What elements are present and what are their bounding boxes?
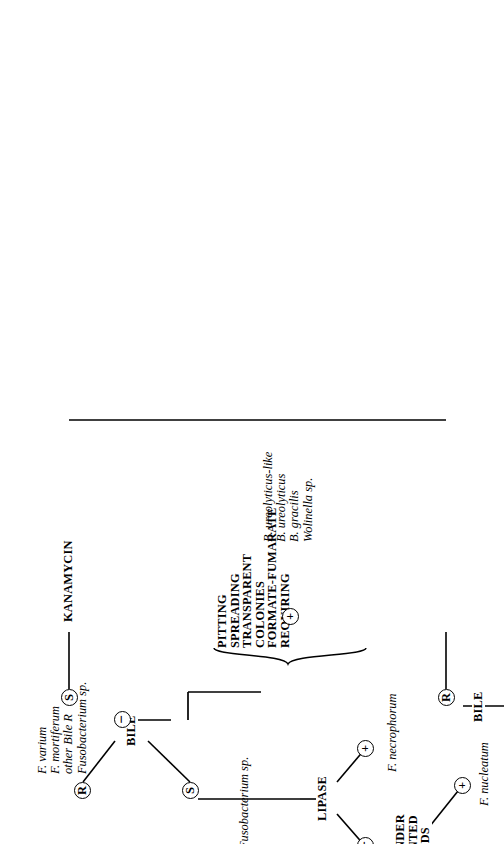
identification-key-figure: KANAMYCIN S R PITTING SPREADING TRANSPAR… [0, 0, 504, 844]
taxa-fusobacterium-sp-mid: Fusobacterium sp. [238, 757, 251, 844]
test-label-kanamycin: KANAMYCIN [62, 540, 75, 622]
taxa-f-necrophorum: F. necrophorum [386, 694, 399, 772]
node-bile-top-resistant[interactable]: R [74, 782, 91, 799]
node-kanamycin-sensitive[interactable]: S [61, 689, 78, 706]
node-pitting-positive[interactable]: + [282, 608, 299, 625]
taxa-f-nucleatum: F. nucleatum [478, 742, 491, 806]
test-label-slender-pointed-ends: SLENDER POINTED ENDS [394, 804, 432, 844]
test-label-lipase: LIPASE [316, 776, 329, 821]
node-lipase-positive[interactable]: + [357, 740, 374, 757]
node-bile-top-negative[interactable]: − [114, 711, 131, 728]
brace-pitting-block [212, 646, 370, 666]
node-spe-positive[interactable]: + [454, 777, 471, 794]
taxa-pitting-positive: B. ureolyticus-like B. ureolyticus B. gr… [262, 452, 315, 542]
node-kanamycin-resistant[interactable]: R [438, 689, 455, 706]
test-label-bile-bottom: BILE [472, 692, 485, 722]
node-bile-top-sensitive[interactable]: S [182, 782, 199, 799]
